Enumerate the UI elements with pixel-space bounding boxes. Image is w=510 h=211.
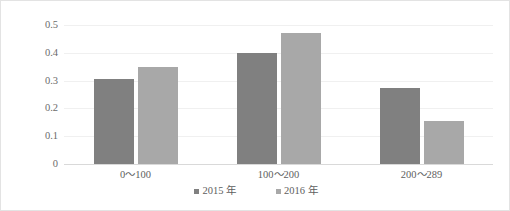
- plot-area: [64, 25, 493, 164]
- bar-group: [350, 25, 493, 164]
- y-tick-label: 0.2: [12, 103, 58, 114]
- legend-label: 2016 年: [284, 186, 318, 197]
- bar[interactable]: [138, 67, 178, 164]
- x-axis: 0～100100～200200～289: [64, 167, 493, 183]
- legend-swatch-icon: [194, 189, 199, 194]
- y-tick-label: 0.5: [12, 20, 58, 31]
- legend-label: 2015 年: [202, 186, 236, 197]
- bar-group: [64, 25, 207, 164]
- y-tick-label: 0.3: [12, 75, 58, 86]
- bar-group: [207, 25, 350, 164]
- chart-legend: 2015 年2016 年: [1, 186, 510, 197]
- bar[interactable]: [237, 53, 277, 164]
- x-tick-label: 100～200: [207, 167, 350, 183]
- y-tick-label: 0: [12, 159, 58, 170]
- x-axis-line: [64, 164, 493, 165]
- x-tick-label: 0～100: [64, 167, 207, 183]
- bar[interactable]: [424, 121, 464, 164]
- legend-item[interactable]: 2016 年: [276, 186, 318, 197]
- bar[interactable]: [380, 88, 420, 164]
- bar[interactable]: [281, 33, 321, 164]
- legend-swatch-icon: [276, 189, 281, 194]
- x-tick-label: 200～289: [350, 167, 493, 183]
- legend-item[interactable]: 2015 年: [194, 186, 236, 197]
- bar[interactable]: [94, 79, 134, 164]
- bar-chart: 0.50.40.30.20.10 0～100100～200200～289 201…: [0, 0, 510, 211]
- y-tick-label: 0.4: [12, 48, 58, 59]
- y-tick-label: 0.1: [12, 131, 58, 142]
- y-axis: 0.50.40.30.20.10: [1, 25, 58, 164]
